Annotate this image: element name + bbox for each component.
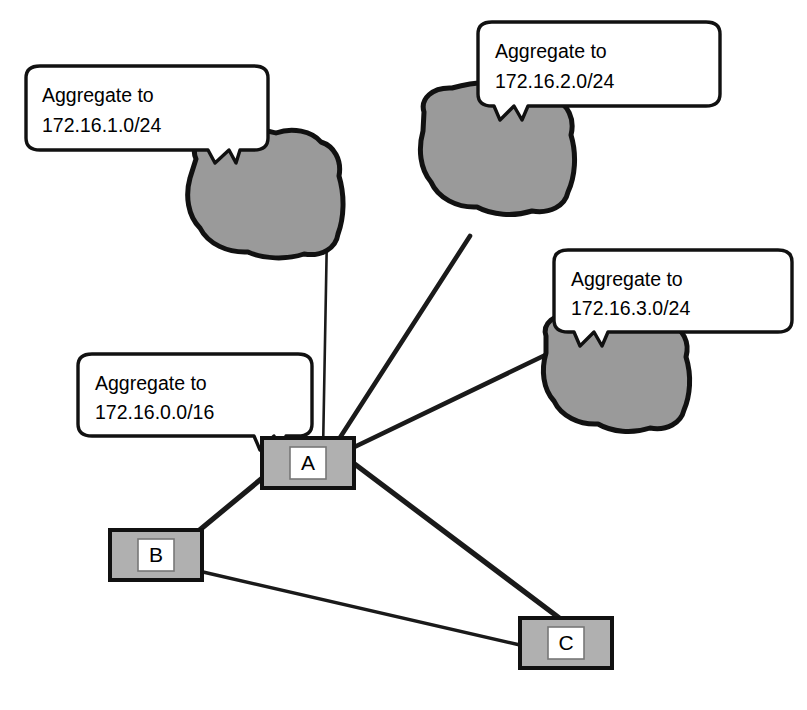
link-router-a-router-c (352, 462, 562, 620)
callout-4-line-1: Aggregate to (95, 372, 207, 394)
router-b[interactable]: B (110, 530, 202, 580)
router-a[interactable]: A (262, 438, 354, 488)
callout-2[interactable]: Aggregate to 172.16.2.0/24 (478, 22, 720, 120)
network-diagram: Aggregate to 172.16.1.0/24 Aggregate to … (0, 0, 807, 710)
router-c-label: C (558, 631, 573, 654)
callout-4[interactable]: Aggregate to 172.16.0.0/16 (78, 354, 312, 450)
callout-2-line-2: 172.16.2.0/24 (495, 70, 614, 92)
link-router-a-cloud-3 (344, 348, 560, 452)
link-router-a-cloud-2 (332, 236, 470, 450)
link-router-a-cloud-1 (323, 232, 327, 452)
callout-1-line-1: Aggregate to (42, 84, 154, 106)
callout-1[interactable]: Aggregate to 172.16.1.0/24 (26, 66, 268, 163)
callout-1-line-2: 172.16.1.0/24 (42, 114, 161, 136)
link-router-b-router-c (203, 572, 520, 645)
router-c[interactable]: C (520, 618, 612, 668)
diagram-canvas: Aggregate to 172.16.1.0/24 Aggregate to … (0, 0, 807, 710)
callout-3[interactable]: Aggregate to 172.16.3.0/24 (554, 250, 792, 346)
callout-3-line-2: 172.16.3.0/24 (571, 297, 690, 319)
callout-2-line-1: Aggregate to (495, 40, 607, 62)
router-b-label: B (149, 543, 163, 566)
connection-lines (196, 232, 562, 645)
callout-4-line-2: 172.16.0.0/16 (95, 401, 214, 423)
router-a-label: A (301, 451, 315, 474)
callout-3-line-1: Aggregate to (571, 268, 683, 290)
